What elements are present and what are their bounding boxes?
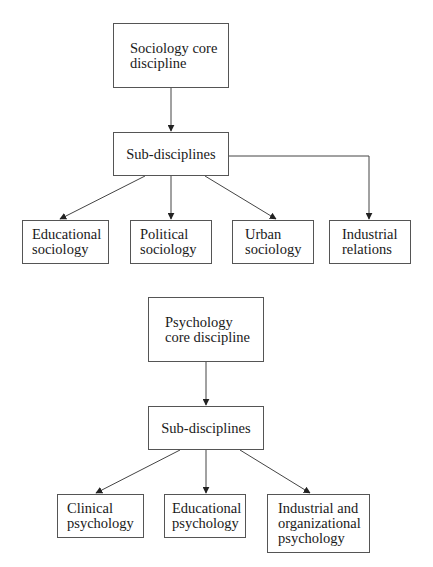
arrow-sub-to-industrial-organizational-psychology xyxy=(240,450,310,493)
educational-sociology-label: Educational sociology xyxy=(32,227,101,257)
educational-sociology-node: Educational sociology xyxy=(22,220,109,264)
psychology-core-node: Psychology core discipline xyxy=(148,297,264,362)
industrial-organizational-psychology-label: Industrial and organizational psychology xyxy=(278,501,361,546)
diagram-canvas: Sociology core discipline Sub-discipline… xyxy=(0,0,433,567)
sociology-core-label: Sociology core discipline xyxy=(130,41,217,71)
arrow-sub-to-industrial-relations xyxy=(228,156,369,219)
psychology-subdisciplines-label: Sub-disciplines xyxy=(161,421,250,436)
psychology-core-label: Psychology core discipline xyxy=(165,315,250,345)
arrow-sub-to-clinical-psychology xyxy=(96,450,180,493)
industrial-relations-label: Industrial relations xyxy=(342,227,398,257)
arrow-sub-to-urban-sociology xyxy=(205,176,276,219)
sociology-subdisciplines-node: Sub-disciplines xyxy=(113,132,229,176)
industrial-organizational-psychology-node: Industrial and organizational psychology xyxy=(267,494,370,553)
arrow-sub-to-educational-sociology xyxy=(60,176,145,219)
educational-psychology-label: Educational psychology xyxy=(172,501,241,531)
industrial-relations-node: Industrial relations xyxy=(329,220,411,264)
educational-psychology-node: Educational psychology xyxy=(164,494,246,538)
clinical-psychology-node: Clinical psychology xyxy=(57,494,144,538)
urban-sociology-label: Urban sociology xyxy=(245,227,301,257)
sociology-core-node: Sociology core discipline xyxy=(113,23,229,88)
psychology-subdisciplines-node: Sub-disciplines xyxy=(148,406,264,450)
urban-sociology-node: Urban sociology xyxy=(232,220,314,264)
political-sociology-label: Political sociology xyxy=(140,227,196,257)
clinical-psychology-label: Clinical psychology xyxy=(67,501,134,531)
political-sociology-node: Political sociology xyxy=(130,220,212,264)
sociology-subdisciplines-label: Sub-disciplines xyxy=(126,147,215,162)
